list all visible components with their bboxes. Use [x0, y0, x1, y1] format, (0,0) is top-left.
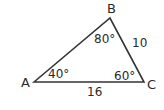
side-label-ac: 16 [87, 86, 102, 98]
side-label-bc: 10 [132, 37, 147, 49]
angle-label-a: 40° [48, 68, 69, 80]
angle-label-c: 60° [114, 70, 135, 82]
vertex-label-a: A [21, 76, 30, 89]
triangle-shape [0, 0, 164, 110]
angle-label-b: 80° [94, 33, 115, 45]
triangle-diagram: A B C 40° 80° 60° 10 16 [0, 0, 164, 110]
vertex-label-b: B [107, 2, 116, 15]
vertex-label-c: C [147, 78, 156, 91]
